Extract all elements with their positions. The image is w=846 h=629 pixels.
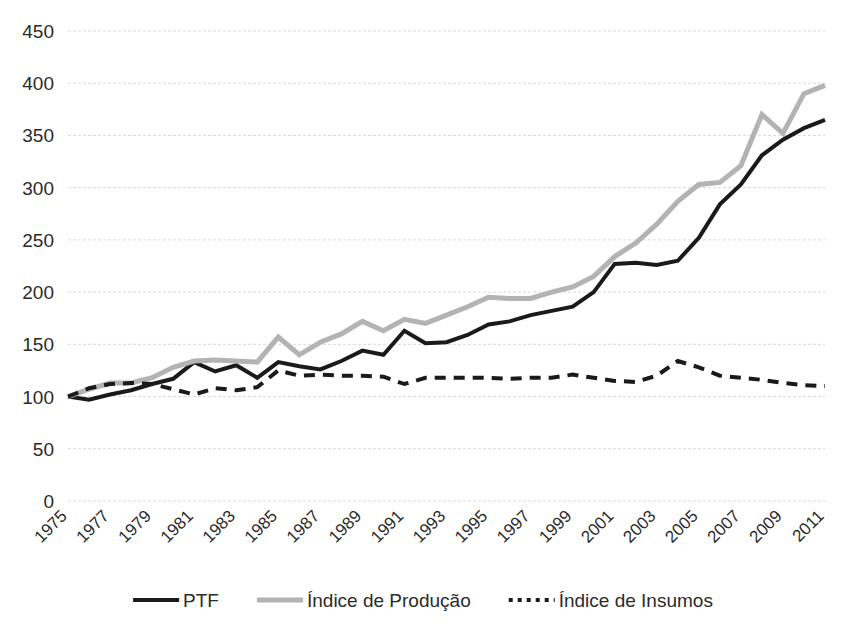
- x-axis-tick-label: 2009: [746, 506, 786, 546]
- series-line-ndice-de-produ-o: [68, 85, 825, 396]
- data-series-group: [68, 85, 825, 399]
- x-axis-tick-label: 1985: [241, 506, 281, 546]
- legend-label-ptf[interactable]: PTF: [183, 590, 219, 611]
- y-axis-tick-label: 50: [33, 439, 54, 460]
- x-axis-tick-label: 2003: [619, 506, 659, 546]
- gridlines-group: [68, 31, 825, 501]
- x-axis-tick-label: 2005: [661, 506, 701, 546]
- y-axis-tick-label: 200: [22, 282, 54, 303]
- y-axis-tick-label: 450: [22, 21, 54, 42]
- y-axis-tick-label: 250: [22, 230, 54, 251]
- x-axis-tick-label: 1995: [451, 506, 491, 546]
- series-line-ptf: [68, 120, 825, 400]
- y-axis-tick-label: 100: [22, 387, 54, 408]
- x-axis-tick-label: 1975: [31, 506, 71, 546]
- x-axis-labels-group: 1975197719791981198319851987198919911993…: [31, 506, 828, 546]
- y-axis-tick-label: 150: [22, 334, 54, 355]
- x-axis-tick-label: 1999: [535, 506, 575, 546]
- y-axis-tick-label: 0: [43, 491, 54, 512]
- x-axis-tick-label: 1997: [493, 506, 533, 546]
- legend-label-ndice-de-produ-o[interactable]: Índice de Produção: [307, 590, 471, 611]
- x-axis-tick-label: 2001: [577, 506, 617, 546]
- x-axis-tick-label: 1977: [73, 506, 113, 546]
- x-axis-tick-label: 1993: [409, 506, 449, 546]
- chart-container: 050100150200250300350400450 197519771979…: [0, 0, 846, 629]
- x-axis-tick-label: 1981: [157, 506, 197, 546]
- chart-legend: PTFÍndice de ProduçãoÍndice de Insumos: [133, 590, 713, 611]
- line-chart: 050100150200250300350400450 197519771979…: [0, 0, 846, 629]
- y-axis-labels-group: 050100150200250300350400450: [22, 21, 54, 512]
- y-axis-tick-label: 350: [22, 125, 54, 146]
- x-axis-tick-label: 1979: [115, 506, 155, 546]
- x-axis-tick-label: 1987: [283, 506, 323, 546]
- y-axis-tick-label: 400: [22, 73, 54, 94]
- x-axis-tick-label: 1983: [199, 506, 239, 546]
- legend-label-ndice-de-insumos[interactable]: Índice de Insumos: [559, 590, 713, 611]
- x-axis-tick-label: 1991: [367, 506, 407, 546]
- x-axis-tick-label: 2011: [789, 506, 828, 545]
- y-axis-tick-label: 300: [22, 178, 54, 199]
- x-axis-tick-label: 2007: [704, 506, 744, 546]
- x-axis-tick-label: 1989: [325, 506, 365, 546]
